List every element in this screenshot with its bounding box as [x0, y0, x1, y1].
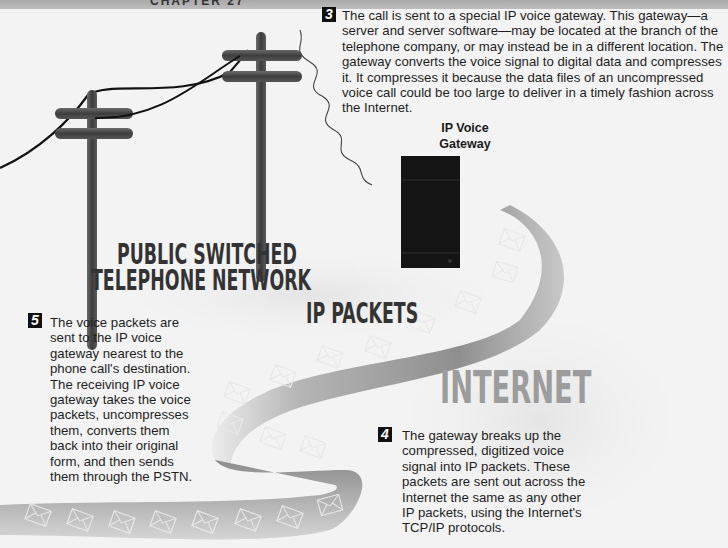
step-3-text: The call is sent to a special IP voice g…	[342, 8, 728, 116]
ip-packets-label: IP PACKETS	[306, 297, 418, 330]
internet-label: INTERNET	[440, 362, 591, 413]
gateway-label: IP Voice Gateway	[430, 120, 500, 152]
step-4-number: 4	[378, 427, 392, 442]
gateway-label-line1: IP Voice	[430, 120, 500, 136]
pstn-label-line2: TELEPHONE NETWORK	[91, 264, 311, 297]
gateway-label-line2: Gateway	[430, 136, 500, 152]
gateway-server	[401, 156, 460, 268]
step-5-number: 5	[28, 313, 42, 328]
step-5-text: The voice packets are sent to the IP voi…	[50, 315, 196, 484]
step-3-number: 3	[322, 7, 336, 22]
step-4-text: The gateway breaks up the compressed, di…	[402, 428, 592, 536]
